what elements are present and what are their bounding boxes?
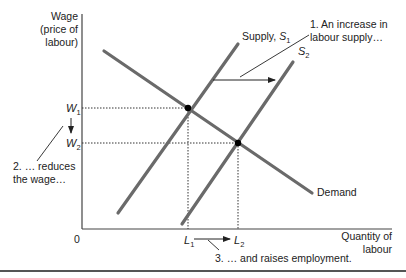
equilibrium-point-1 [185, 105, 191, 111]
w1-label: W1 [66, 102, 81, 117]
supply1-label: Supply, S1 [242, 30, 290, 45]
l2-label: L2 [234, 234, 244, 249]
note2-line1: 2. … reduces [13, 160, 75, 172]
origin-label: 0 [74, 233, 80, 245]
y-axis-label-2: (price of [40, 23, 78, 35]
note2-line2: the wage… [13, 173, 66, 185]
demand-curve [104, 51, 312, 193]
supply2-label: S2 [298, 45, 310, 60]
x-axis-label-1: Quantity of [341, 230, 392, 242]
note3-leader [208, 240, 219, 250]
note1-line2: labour supply… [310, 31, 383, 43]
x-axis-label-2: labour [363, 243, 393, 255]
equilibrium-point-2 [235, 140, 241, 146]
y-axis-label-3: labour) [45, 36, 78, 48]
y-axis-label-1: Wage [51, 10, 78, 22]
demand-label: Demand [317, 186, 357, 198]
w2-label: W2 [66, 137, 81, 152]
note1-line1: 1. An increase in [310, 18, 388, 30]
l1-label: L1 [184, 234, 194, 249]
supply-demand-chart: Wage (price of labour) W1 W2 2. … reduce… [0, 0, 406, 278]
note3-text: 3. … and raises employment. [215, 252, 352, 264]
note2-leader [37, 126, 63, 161]
